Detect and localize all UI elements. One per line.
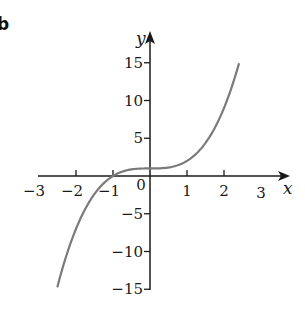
y-tick-label: −10 xyxy=(111,243,143,261)
x-tick-label: −2 xyxy=(61,182,83,200)
x-tick-label: 1 xyxy=(182,182,192,200)
y-tick-label: −5 xyxy=(121,205,143,223)
x-tick-label: −3 xyxy=(23,182,45,200)
x-tick-label: 3 xyxy=(256,184,266,202)
y-tick-label: 5 xyxy=(133,129,143,147)
y-tick-label: −15 xyxy=(111,280,143,298)
x-axis-label: x xyxy=(283,178,293,198)
x-tick-label: 2 xyxy=(219,182,229,200)
x-tick-label: 0 xyxy=(136,176,146,194)
y-tick-label: 15 xyxy=(124,54,143,72)
y-axis-label: y xyxy=(135,28,146,48)
y-tick-label: 10 xyxy=(124,92,143,110)
panel-label: b xyxy=(0,14,9,34)
chart-figure: b x y −3−2−1012315105−5−10−15 xyxy=(0,0,305,320)
